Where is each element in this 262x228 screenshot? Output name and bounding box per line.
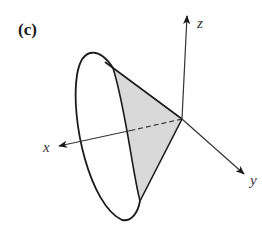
z-axis-label: z <box>196 15 203 31</box>
y-axis <box>182 119 244 174</box>
shaded-cross-section <box>113 68 182 201</box>
y-axis-label: y <box>248 172 257 188</box>
z-axis <box>182 16 187 119</box>
x-axis-label: x <box>42 139 50 155</box>
panel-label: (c) <box>18 20 37 39</box>
cone-diagram: (c) z y x <box>0 0 262 228</box>
x-axis <box>59 130 133 146</box>
